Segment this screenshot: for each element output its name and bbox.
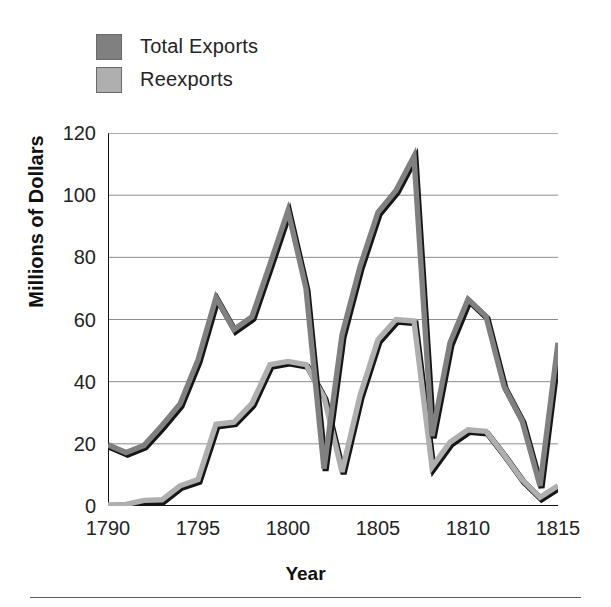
y-tick-label: 60: [0, 308, 96, 331]
y-tick-label: 120: [0, 122, 96, 145]
x-tick-label: 1815: [536, 517, 581, 540]
y-tick-label: 0: [0, 495, 96, 518]
x-tick-label: 1795: [176, 517, 221, 540]
x-axis-label: Year: [0, 563, 611, 585]
export-chart-figure: Total Exports Reexports 0204060801001201…: [0, 0, 611, 607]
chart-svg: [108, 133, 558, 506]
y-tick-label: 40: [0, 370, 96, 393]
y-tick-label: 100: [0, 184, 96, 207]
footer-divider: [30, 597, 581, 598]
y-tick-label: 80: [0, 246, 96, 269]
plot-area: [108, 133, 558, 506]
y-axis-label: Millions of Dollars: [25, 112, 48, 332]
x-tick-label: 1810: [446, 517, 491, 540]
x-tick-label: 1800: [266, 517, 311, 540]
x-tick-label: 1805: [356, 517, 401, 540]
y-tick-label: 20: [0, 432, 96, 455]
x-tick-label: 1790: [86, 517, 131, 540]
